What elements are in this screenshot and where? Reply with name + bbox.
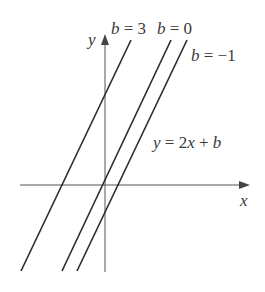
label-b-0: b = 0 [157, 19, 192, 38]
line-b-minus-1 [77, 40, 187, 271]
line-b-0 [62, 40, 171, 271]
label-b-3: b = 3 [111, 19, 146, 38]
label-b-minus-1: b = −1 [191, 46, 236, 65]
line-b-3 [21, 40, 131, 271]
line-family-diagram: y x b = 3 b = 0 b = −1 y = 2x + b [0, 0, 265, 292]
equation-label: y = 2x + b [151, 133, 221, 152]
y-axis-label: y [86, 30, 96, 49]
x-axis-arrow-icon [239, 181, 250, 189]
y-axis-arrow-icon [101, 34, 109, 45]
x-axis-label: x [239, 191, 248, 210]
